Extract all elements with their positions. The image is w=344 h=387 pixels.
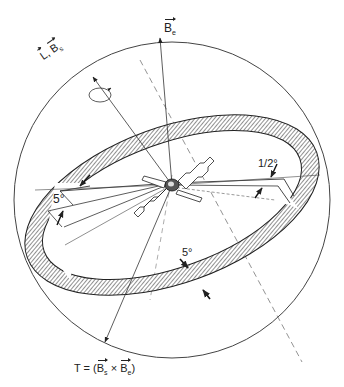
- be-base: B: [164, 21, 172, 35]
- be-axis: [160, 38, 172, 185]
- torque-s2: e: [127, 369, 131, 376]
- torque-suffix: ): [131, 362, 135, 374]
- rotation-indicator: [89, 88, 111, 102]
- angle-5-bottom-label: 5°: [182, 247, 193, 258]
- cross-op: ×: [108, 362, 121, 374]
- angle-half-label: 1/2°: [258, 158, 278, 169]
- be-label: Be: [164, 22, 176, 36]
- torque-equation: T = (Bs × Be): [74, 363, 135, 376]
- spin-axis-dashed: [140, 60, 302, 362]
- bs-vector: Bs: [97, 363, 108, 376]
- torque-b1: B: [97, 362, 104, 374]
- be-vector: Be: [120, 363, 131, 376]
- torque-prefix: T = (: [74, 362, 97, 374]
- be-vector-symbol: Be: [164, 22, 176, 36]
- angle-5-left-label: 5°: [53, 193, 64, 205]
- torque-s1: s: [104, 369, 108, 376]
- be-sub: e: [172, 29, 176, 36]
